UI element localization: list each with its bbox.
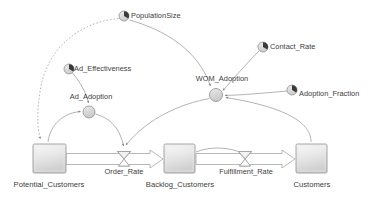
flow-label-order-rate: Order_Rate <box>105 167 144 176</box>
converter-adoption-fraction[interactable] <box>287 85 297 95</box>
link-wom-to-order-rate <box>126 99 210 146</box>
link-potential-to-ad-adoption <box>48 112 81 143</box>
auxiliary-label-ad-adoption: Ad_Adoption <box>70 92 113 101</box>
stock-customers[interactable] <box>296 144 327 173</box>
converter-label-adoption-fraction: Adoption_Fraction <box>299 89 359 98</box>
diagram-canvas: PopulationSize Ad_Effectiveness Contact_… <box>0 0 384 197</box>
link-populationsize-to-potential <box>38 19 119 140</box>
converter-population-size[interactable] <box>119 11 129 21</box>
flow-pipe-order-rate <box>66 150 163 168</box>
converter-label-population-size: PopulationSize <box>131 11 181 20</box>
flow-label-fulfillment-rate: Fulfillment_Rate <box>219 167 273 176</box>
stock-label-backlog-customers: Backlog_Customers <box>146 180 214 189</box>
stock-label-potential-customers: Potential_Customers <box>14 180 85 189</box>
converter-label-ad-effectiveness: Ad_Effectiveness <box>74 64 131 73</box>
stock-backlog-customers[interactable] <box>164 144 195 173</box>
link-ad-adoption-to-ad-order-rate <box>96 114 124 146</box>
converter-contact-rate[interactable] <box>258 42 268 52</box>
auxiliary-label-wom-adoption: WOM_Adoption <box>196 74 248 83</box>
stock-potential-customers[interactable] <box>33 144 66 173</box>
link-contact-rate-to-wom <box>223 51 260 91</box>
stock-flow-diagram <box>0 0 384 197</box>
auxiliary-ad-adoption[interactable] <box>83 106 95 118</box>
auxiliary-wom-adoption[interactable] <box>210 89 223 102</box>
stock-label-customers: Customers <box>294 180 331 189</box>
converter-ad-effectiveness[interactable] <box>64 64 74 74</box>
link-customers-to-wom <box>226 98 311 143</box>
link-adoption-fraction-to-wom <box>225 91 287 96</box>
converter-label-contact-rate: Contact_Rate <box>270 42 315 51</box>
link-backlog-to-fulfillment-rate <box>196 148 243 153</box>
